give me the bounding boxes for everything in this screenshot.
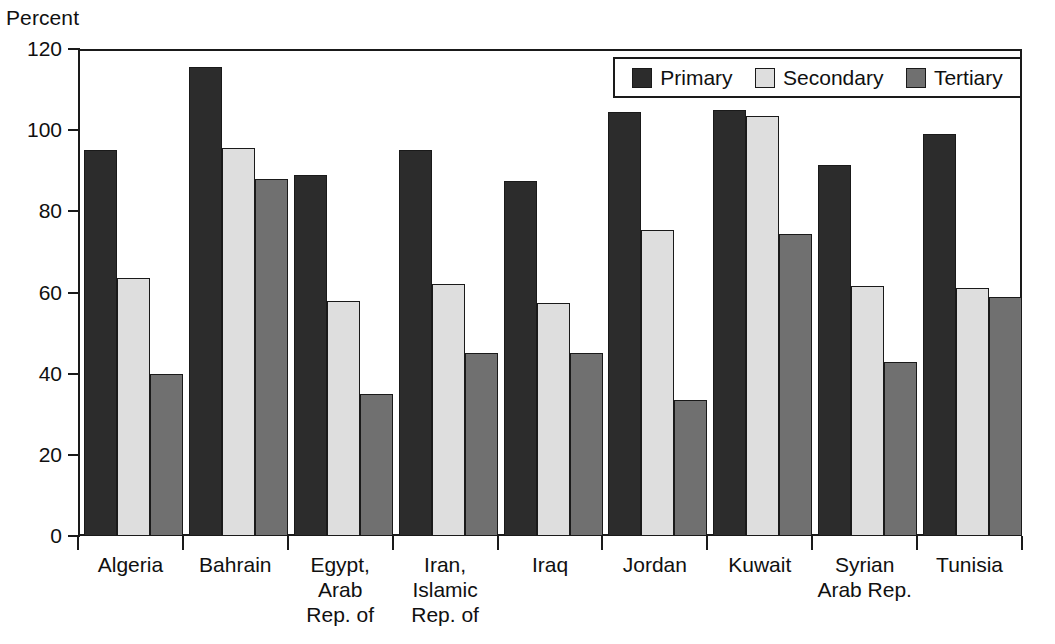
x-axis-category-label: Bahrain (183, 552, 288, 577)
y-axis-tick-label-wrap: 100 (0, 119, 62, 140)
bar-group (707, 49, 812, 536)
bar-group (498, 49, 603, 536)
bar-tertiary (570, 353, 603, 536)
x-axis-category-label: Algeria (78, 552, 183, 577)
y-axis-tick-label: 100 (0, 119, 62, 140)
bar-primary (399, 150, 432, 536)
y-axis-tick-label-wrap: 120 (0, 38, 62, 59)
legend-item-primary[interactable]: Primary (632, 67, 732, 88)
bar-primary (923, 134, 956, 536)
x-axis-category-label: Jordan (602, 552, 707, 577)
legend-label: Tertiary (934, 67, 1003, 88)
legend-label: Secondary (783, 67, 883, 88)
bar-primary (84, 150, 117, 536)
y-axis-tick-label-wrap: 0 (0, 525, 62, 546)
y-axis-tick-label: 40 (0, 363, 62, 384)
legend-swatch-primary-icon (632, 68, 652, 88)
bar-primary (818, 165, 851, 536)
x-axis-tick (1021, 536, 1023, 550)
x-axis-tick (601, 536, 603, 550)
x-axis-category-label: Kuwait (707, 552, 812, 577)
bar-primary (713, 110, 746, 536)
legend-item-tertiary[interactable]: Tertiary (906, 67, 1003, 88)
bar-secondary (117, 278, 150, 536)
y-axis-title: Percent (6, 6, 79, 30)
bar-primary (294, 175, 327, 536)
y-axis-tick-label: 20 (0, 444, 62, 465)
bar-group (78, 49, 183, 536)
x-axis-tick (182, 536, 184, 550)
bar-primary (504, 181, 537, 536)
chart-legend: PrimarySecondaryTertiary (613, 57, 1022, 98)
bar-group (602, 49, 707, 536)
bar-secondary (327, 301, 360, 536)
y-axis-tick-label-wrap: 20 (0, 444, 62, 465)
y-axis-tick-label-wrap: 80 (0, 200, 62, 221)
bar-group (288, 49, 393, 536)
bar-tertiary (465, 353, 498, 536)
bar-secondary (222, 148, 255, 536)
bar-secondary (851, 286, 884, 536)
bar-tertiary (779, 234, 812, 536)
bar-secondary (432, 284, 465, 536)
bar-tertiary (989, 297, 1022, 536)
x-axis-tick (706, 536, 708, 550)
bar-secondary (641, 230, 674, 536)
x-axis-category-label: Tunisia (917, 552, 1022, 577)
y-axis-tick-label: 80 (0, 200, 62, 221)
bar-secondary (537, 303, 570, 536)
legend-label: Primary (660, 67, 732, 88)
y-axis-tick-label: 120 (0, 38, 62, 59)
bar-tertiary (360, 394, 393, 536)
bar-group (812, 49, 917, 536)
x-axis-category-label: Iran, Islamic Rep. of (393, 552, 498, 627)
y-axis-tick-label: 0 (0, 525, 62, 546)
x-axis-tick (811, 536, 813, 550)
legend-item-secondary[interactable]: Secondary (755, 67, 883, 88)
x-axis-tick (497, 536, 499, 550)
x-axis-tick (392, 536, 394, 550)
bar-tertiary (674, 400, 707, 536)
bar-secondary (956, 288, 989, 536)
bars-layer (78, 49, 1022, 536)
bar-secondary (746, 116, 779, 536)
legend-swatch-secondary-icon (755, 68, 775, 88)
x-axis-tick (287, 536, 289, 550)
bar-tertiary (884, 362, 917, 537)
x-axis-tick (77, 536, 79, 550)
bar-chart: Percent 020406080100120 AlgeriaBahrainEg… (0, 0, 1055, 644)
legend-swatch-tertiary-icon (906, 68, 926, 88)
bar-group (183, 49, 288, 536)
x-axis-tick (916, 536, 918, 550)
y-axis-tick-label-wrap: 40 (0, 363, 62, 384)
bar-tertiary (255, 179, 288, 536)
y-axis-tick-label-wrap: 60 (0, 282, 62, 303)
bar-primary (608, 112, 641, 536)
x-axis-category-label: Iraq (498, 552, 603, 577)
bar-group (917, 49, 1022, 536)
bar-primary (189, 67, 222, 536)
bar-tertiary (150, 374, 183, 536)
bar-group (393, 49, 498, 536)
y-axis-tick-label: 60 (0, 282, 62, 303)
x-axis-category-label: Syrian Arab Rep. (812, 552, 917, 602)
x-axis-category-label: Egypt, Arab Rep. of (288, 552, 393, 627)
